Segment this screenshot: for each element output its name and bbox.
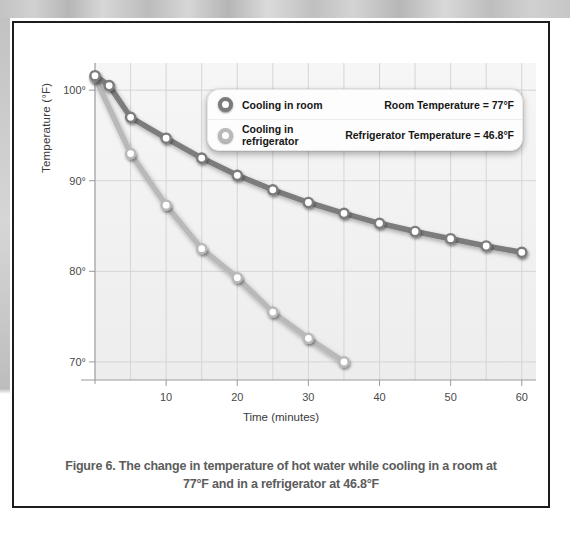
x-tick-label: 20 bbox=[231, 391, 243, 403]
figure-caption-line-2: 77°F and in a refrigerator at 46.8°F bbox=[44, 475, 518, 493]
legend-label-refrigerator: Cooling in refrigerator bbox=[242, 123, 345, 147]
data-point-room bbox=[375, 219, 384, 228]
page-left-margin-band bbox=[0, 18, 10, 533]
legend-row-room[interactable]: Cooling in room Room Temperature = 77°F bbox=[208, 90, 522, 120]
data-point-room bbox=[162, 134, 171, 143]
legend-value-refrigerator: Refrigerator Temperature = 46.8°F bbox=[345, 129, 514, 141]
y-tick-label: 80° bbox=[69, 265, 86, 277]
data-point-refrigerator bbox=[268, 308, 277, 317]
data-point-refrigerator bbox=[339, 357, 348, 366]
data-point-refrigerator bbox=[304, 334, 313, 343]
x-tick-label: 30 bbox=[302, 391, 314, 403]
chart-svg: 70°80°90°100° 102030405060 bbox=[14, 23, 548, 453]
x-tick-label: 50 bbox=[445, 391, 457, 403]
y-tick-label: 100° bbox=[63, 84, 86, 96]
chart-legend[interactable]: Cooling in room Room Temperature = 77°F … bbox=[207, 89, 523, 151]
data-point-room bbox=[90, 71, 99, 80]
data-point-room bbox=[105, 81, 114, 90]
legend-value-room: Room Temperature = 77°F bbox=[384, 99, 514, 111]
data-point-room bbox=[304, 198, 313, 207]
figure-frame: Temperature (°F) Time (minutes) 70°80°90… bbox=[12, 21, 550, 508]
x-axis-ticks: 102030405060 bbox=[160, 380, 528, 403]
data-point-refrigerator bbox=[233, 273, 242, 282]
data-point-room bbox=[446, 234, 455, 243]
data-point-refrigerator bbox=[162, 201, 171, 210]
figure-caption-line-1: Figure 6. The change in temperature of h… bbox=[44, 457, 518, 475]
data-point-room bbox=[517, 248, 526, 257]
legend-label-room: Cooling in room bbox=[242, 99, 384, 111]
page-top-cutoff-band bbox=[0, 0, 570, 18]
x-tick-label: 40 bbox=[373, 391, 385, 403]
chart-plot-area: Temperature (°F) Time (minutes) 70°80°90… bbox=[14, 23, 548, 453]
y-tick-label: 90° bbox=[69, 175, 86, 187]
y-tick-label: 70° bbox=[69, 356, 86, 368]
data-point-refrigerator bbox=[197, 244, 206, 253]
data-point-room bbox=[197, 154, 206, 163]
legend-row-refrigerator[interactable]: Cooling in refrigerator Refrigerator Tem… bbox=[208, 120, 522, 150]
x-tick-label: 60 bbox=[516, 391, 528, 403]
data-point-room bbox=[339, 209, 348, 218]
figure-caption: Figure 6. The change in temperature of h… bbox=[44, 457, 518, 493]
data-point-room bbox=[411, 227, 420, 236]
y-axis-ticks: 70°80°90°100° bbox=[63, 84, 95, 368]
circle-marker-refrigerator-icon bbox=[218, 128, 233, 143]
data-point-room bbox=[482, 241, 491, 250]
x-tick-label: 10 bbox=[160, 391, 172, 403]
data-point-room bbox=[268, 185, 277, 194]
data-point-room bbox=[233, 171, 242, 180]
data-point-refrigerator bbox=[126, 149, 135, 158]
circle-marker-room-icon bbox=[218, 97, 233, 112]
data-point-room bbox=[126, 113, 135, 122]
